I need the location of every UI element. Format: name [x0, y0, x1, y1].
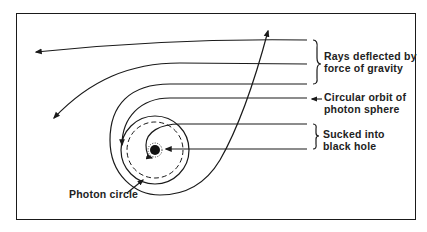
label-line: black hole: [323, 140, 385, 152]
brace-rays-deflected: [313, 40, 321, 84]
brace-sucked-in: [313, 124, 319, 149]
deflected-ray-3: [110, 84, 307, 195]
deflected-ray-1: [36, 40, 307, 52]
label-line: photon sphere: [324, 103, 406, 115]
label-line: Rays deflected by: [324, 50, 417, 62]
label-circular-orbit: Circular orbit of photon sphere: [324, 91, 406, 115]
label-rays-deflected: Rays deflected by force of gravity: [324, 50, 417, 74]
black-hole-light-rays-diagram: [0, 0, 427, 232]
sucked-in-ray-1: [146, 124, 307, 158]
photon-sphere-orbit-ray: [122, 98, 307, 145]
label-line: Sucked into: [323, 128, 385, 140]
label-line: force of gravity: [324, 62, 417, 74]
black-hole: [150, 145, 160, 155]
label-line: Circular orbit of: [324, 91, 406, 103]
deflected-ray-2: [54, 63, 307, 118]
escaping-loop-ray: [220, 31, 268, 160]
label-sucked-in: Sucked into black hole: [323, 128, 385, 152]
label-photon-circle: Photon circle: [69, 188, 138, 200]
